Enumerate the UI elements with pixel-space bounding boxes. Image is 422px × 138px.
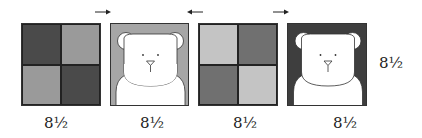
- arrow-right-icon: [94, 8, 112, 16]
- quadrant-dark: [61, 65, 100, 106]
- width-label: 8½: [233, 114, 257, 132]
- arrow-right-icon: [272, 8, 290, 16]
- quadrant-medium: [22, 65, 61, 106]
- quadrant-medium: [61, 24, 100, 65]
- quadrant-dark: [22, 24, 61, 65]
- width-label: 8½: [44, 114, 68, 132]
- panel-checker-light: [198, 23, 278, 106]
- height-label: 8½: [379, 54, 403, 72]
- bear-icon: [288, 24, 367, 106]
- panel-checker-dark: [21, 23, 101, 106]
- arrow-left-icon: [186, 8, 204, 16]
- width-label: 8½: [140, 114, 164, 132]
- panel-bear-light-bg: [110, 23, 189, 106]
- bear-icon: [111, 24, 189, 106]
- panel-bear-dark-bg: [287, 23, 367, 106]
- quadrant-light: [238, 65, 277, 106]
- width-label: 8½: [333, 114, 357, 132]
- quadrant-light: [199, 24, 238, 65]
- quadrant-medium-dark: [238, 24, 277, 65]
- quadrant-medium-dark: [199, 65, 238, 106]
